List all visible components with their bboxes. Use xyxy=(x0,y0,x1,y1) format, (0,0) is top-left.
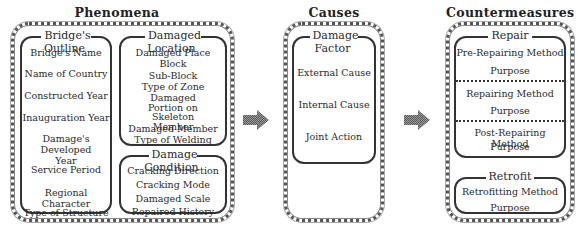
outline-item: Name of Country xyxy=(22,68,110,79)
location-item: Type of Welding xyxy=(121,134,225,145)
outline-item: Regional Character xyxy=(22,187,110,209)
repairing-method: Repairing Method xyxy=(456,88,564,99)
location-item: Damaged Place xyxy=(121,47,225,58)
countermeasures-title: Countermeasures xyxy=(446,5,574,20)
repair-label: Repair xyxy=(488,29,531,42)
arrow-right-icon xyxy=(404,110,430,130)
bridges-outline-box: Bridge's Outline Bridge's Name Name of C… xyxy=(20,36,112,214)
damage-factor-label: Damage Factor xyxy=(310,29,359,55)
cause-item: Joint Action xyxy=(294,131,374,142)
outline-item: Service Period xyxy=(22,164,110,175)
causes-title: Causes xyxy=(284,5,384,20)
retrofit-label: Retrofit xyxy=(486,170,535,183)
section-divider xyxy=(456,80,564,82)
pre-repairing-purpose: Purpose xyxy=(456,65,564,76)
outline-item: Constructed Year xyxy=(22,90,110,101)
repairing-purpose: Purpose xyxy=(456,105,564,116)
outline-item: Inauguration Year xyxy=(22,112,110,123)
retrofit-purpose: Purpose xyxy=(456,202,564,213)
damaged-location-box: Damaged Location Damaged Place Block Sub… xyxy=(119,36,227,146)
outline-item: Type of Structure xyxy=(22,207,110,218)
location-item: Type of Zone xyxy=(121,81,225,92)
location-item: Sub-Block xyxy=(121,70,225,81)
condition-item: Cracking Direction xyxy=(121,165,225,176)
condition-item: Cracking Mode xyxy=(121,179,225,190)
location-item: Block xyxy=(121,58,225,69)
retrofit-box: Retrofit Retrofitting Method Purpose xyxy=(454,177,566,214)
damage-factor-box: Damage Factor External Cause Internal Ca… xyxy=(292,36,376,164)
condition-item: Damaged Scale xyxy=(121,193,225,204)
location-item: Damaged Member xyxy=(121,123,225,134)
repair-box: Repair Pre-Repairing Method Purpose Repa… xyxy=(454,36,566,158)
cause-item: External Cause xyxy=(294,67,374,78)
condition-item: Repaired History xyxy=(121,206,225,217)
section-divider xyxy=(456,120,564,122)
pre-repairing-method: Pre-Repairing Method xyxy=(456,47,564,58)
arrow-right-icon xyxy=(243,110,269,130)
damage-condition-box: Damage Condition Cracking Direction Crac… xyxy=(119,155,227,214)
retrofitting-method: Retrofitting Method xyxy=(456,186,564,197)
outline-item: Bridge's Name xyxy=(22,47,110,58)
post-repairing-purpose: Purpose xyxy=(456,141,564,152)
outline-item: Damage's Developed Year xyxy=(22,133,110,166)
phenomena-title: Phenomena xyxy=(0,5,234,20)
cause-item: Internal Cause xyxy=(294,99,374,110)
